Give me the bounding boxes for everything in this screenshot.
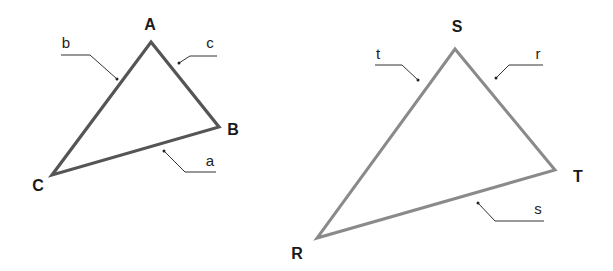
vertex-label-r: R [291, 245, 303, 262]
triangle-rst [317, 49, 555, 238]
leader-c [179, 56, 217, 63]
diagram-canvas: A B C b c a S T R t r s [0, 0, 613, 271]
side-label-c: c [206, 34, 214, 51]
leader-b [61, 55, 117, 79]
leader-a-dot [163, 150, 166, 153]
vertex-label-s: S [452, 18, 463, 35]
leader-r-dot [495, 77, 498, 80]
side-label-t: t [376, 45, 381, 62]
leader-s-dot [477, 202, 480, 205]
vertex-label-t: T [573, 168, 583, 185]
side-label-s: s [534, 200, 542, 217]
leader-c-dot [178, 62, 181, 65]
side-label-r: r [536, 45, 541, 62]
vertex-label-a: A [144, 16, 156, 33]
leader-t-dot [417, 79, 420, 82]
triangle-abc [52, 42, 219, 175]
side-label-a: a [206, 152, 215, 169]
vertex-label-b: B [227, 121, 239, 138]
side-label-b: b [62, 34, 70, 51]
leader-r [496, 65, 543, 78]
leader-t [375, 65, 418, 80]
triangles-diagram: A B C b c a S T R t r s [0, 0, 613, 271]
leader-b-dot [116, 78, 119, 81]
vertex-label-c: C [32, 177, 44, 194]
